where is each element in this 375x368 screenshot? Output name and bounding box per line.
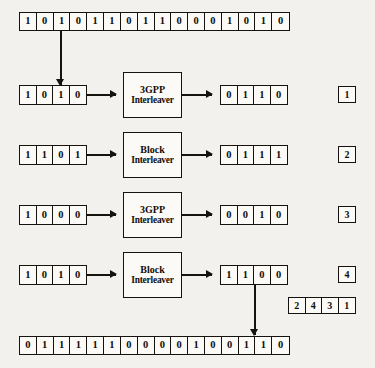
row-4-output-bit-3: 0: [271, 266, 287, 284]
row-3-output-register: 0010: [220, 205, 288, 225]
row-1-interleaver-block: 3GPP Interleaver: [123, 72, 182, 118]
row-2-input-bit-2: 0: [53, 146, 70, 164]
row-4-input-register: 1010: [19, 265, 87, 285]
row-2-input-bit-0: 1: [20, 146, 37, 164]
input-stream-bit-4: 1: [87, 13, 104, 30]
row-3-output-bit-2: 1: [254, 206, 271, 224]
input-stream-bit-6: 0: [121, 13, 138, 30]
row-1-input-bit-1: 0: [37, 86, 54, 104]
row-4-input-bit-1: 0: [37, 266, 54, 284]
interleaver-diagram: 1010110110001010 1010 3GPP Interleaver 0…: [0, 0, 375, 368]
row-3-input-register: 1000: [19, 205, 87, 225]
row-1-output-register: 0110: [220, 85, 288, 105]
row-4-input-bit-0: 1: [20, 266, 37, 284]
output-stream-bit-2: 1: [54, 337, 71, 354]
row-4-output-bit-2: 0: [254, 266, 271, 284]
row-1-input-arrow: [87, 94, 116, 96]
row-1-interleaver-title: 3GPP: [140, 84, 165, 95]
row-4-interleaver-block: Block Interleaver: [123, 252, 182, 298]
row-2-input-arrow: [87, 154, 116, 156]
row-3-input-bit-3: 0: [70, 206, 86, 224]
input-stream-bit-5: 1: [104, 13, 121, 30]
row-2-index-badge: 2: [338, 146, 356, 163]
input-stream-bit-1: 0: [37, 13, 54, 30]
row-2-output-bit-3: 1: [271, 146, 287, 164]
row-3-index-badge: 3: [338, 206, 356, 223]
row-1-output-arrow: [182, 94, 212, 96]
row-3-output-bit-3: 0: [271, 206, 287, 224]
row-1-output-bit-1: 1: [238, 86, 255, 104]
row-4-output-bit-1: 1: [238, 266, 255, 284]
permutation-value-2: 3: [322, 298, 339, 313]
row-3-input-arrow: [87, 214, 116, 216]
input-stream-bit-7: 1: [138, 13, 155, 30]
row-1-input-register: 1010: [19, 85, 87, 105]
output-stream-bit-8: 0: [155, 337, 172, 354]
output-stream-bit-3: 1: [70, 337, 87, 354]
row-2-output-bit-2: 1: [254, 146, 271, 164]
row-3-output-arrow: [182, 214, 212, 216]
row-1-index-badge: 1: [338, 86, 356, 103]
output-bit-stream-register: 0111110000100110: [19, 336, 290, 355]
row-2-output-register: 0111: [220, 145, 288, 165]
row-1-output-bit-2: 1: [254, 86, 271, 104]
row-3-interleaver-block: 3GPP Interleaver: [123, 192, 182, 238]
input-stream-bit-14: 1: [255, 13, 272, 30]
output-stream-bit-12: 0: [222, 337, 239, 354]
output-stream-bit-10: 1: [188, 337, 205, 354]
input-stream-bit-2: 1: [54, 13, 71, 30]
input-stream-bit-9: 0: [171, 13, 188, 30]
permutation-order-register: 2431: [288, 297, 356, 314]
row-2-input-bit-1: 1: [37, 146, 54, 164]
input-stream-bit-0: 1: [20, 13, 37, 30]
row-3-output-bit-1: 0: [238, 206, 255, 224]
row-4-input-arrow: [87, 274, 116, 276]
row-1-input-bit-0: 1: [20, 86, 37, 104]
output-stream-bit-1: 1: [37, 337, 54, 354]
row-4-output-register: 1100: [220, 265, 288, 285]
row-4-interleaver-subtitle: Interleaver: [131, 275, 174, 286]
input-stream-bit-15: 0: [272, 13, 289, 30]
row-2-input-bit-3: 1: [70, 146, 86, 164]
row-4-input-bit-2: 1: [53, 266, 70, 284]
permutation-value-1: 4: [306, 298, 323, 313]
output-stream-bit-15: 0: [272, 337, 289, 354]
feed-down-arrow: [60, 31, 62, 85]
row-1-input-bit-3: 0: [70, 86, 86, 104]
row-3-output-bit-0: 0: [221, 206, 238, 224]
row-1-input-bit-2: 1: [53, 86, 70, 104]
output-stream-bit-6: 0: [121, 337, 138, 354]
output-stream-bit-13: 1: [239, 337, 256, 354]
collect-down-arrow: [254, 285, 256, 335]
row-2-output-bit-1: 1: [238, 146, 255, 164]
output-stream-bit-14: 1: [255, 337, 272, 354]
row-3-input-bit-0: 1: [20, 206, 37, 224]
row-4-interleaver-title: Block: [140, 264, 164, 275]
input-bit-stream-register: 1010110110001010: [19, 12, 290, 31]
input-stream-bit-3: 0: [70, 13, 87, 30]
row-4-output-bit-0: 1: [221, 266, 238, 284]
row-4-output-arrow: [182, 274, 212, 276]
output-stream-bit-7: 0: [138, 337, 155, 354]
input-stream-bit-11: 0: [205, 13, 222, 30]
input-stream-bit-10: 0: [188, 13, 205, 30]
row-3-interleaver-subtitle: Interleaver: [131, 215, 174, 226]
row-2-output-arrow: [182, 154, 212, 156]
row-3-input-bit-1: 0: [37, 206, 54, 224]
row-1-output-bit-3: 0: [271, 86, 287, 104]
row-3-interleaver-title: 3GPP: [140, 204, 165, 215]
row-2-output-bit-0: 0: [221, 146, 238, 164]
output-stream-bit-5: 1: [104, 337, 121, 354]
input-stream-bit-12: 1: [222, 13, 239, 30]
permutation-value-0: 2: [289, 298, 306, 313]
input-stream-bit-8: 1: [155, 13, 172, 30]
output-stream-bit-4: 1: [87, 337, 104, 354]
input-stream-bit-13: 0: [239, 13, 256, 30]
row-1-output-bit-0: 0: [221, 86, 238, 104]
row-2-input-register: 1101: [19, 145, 87, 165]
output-stream-bit-11: 0: [205, 337, 222, 354]
output-stream-bit-0: 0: [20, 337, 37, 354]
row-4-index-badge: 4: [338, 266, 356, 283]
permutation-value-3: 1: [339, 298, 355, 313]
row-1-interleaver-subtitle: Interleaver: [131, 95, 174, 106]
